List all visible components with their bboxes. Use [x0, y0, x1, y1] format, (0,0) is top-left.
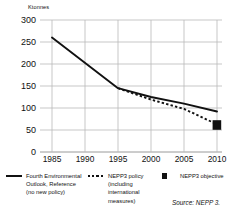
y-tick-150: 150 [10, 81, 36, 91]
y-tick-100: 100 [10, 103, 36, 113]
legend-reference-line2: Outlook, Reference [26, 180, 104, 188]
y-tick-200: 200 [10, 59, 36, 69]
legend-policy-line3: international [108, 188, 164, 196]
legend-item-nepp3-policy: NEPP3 policy (including international me… [108, 172, 164, 205]
series-reference-line [52, 38, 217, 112]
x-tick-2005: 2005 [175, 154, 194, 164]
grid-lines [40, 20, 222, 152]
x-tick-1990: 1990 [76, 154, 95, 164]
legend-item-nepp3-objective: NEPP3 objective [172, 172, 238, 180]
solid-line-swatch-icon [6, 175, 22, 177]
series-nepp3-policy-line [118, 88, 217, 124]
black-square-swatch-icon [162, 173, 167, 178]
y-tick-300: 300 [10, 15, 36, 25]
legend-objective-label: NEPP3 objective [172, 172, 238, 180]
x-axis-tick-labels: 1985 1990 1995 2000 2005 2010 [40, 154, 222, 168]
legend-reference-line3: (no new policy) [26, 188, 104, 196]
y-axis-unit-label: Ktonnes [28, 4, 49, 10]
chart-svg [40, 20, 222, 152]
y-tick-50: 50 [10, 125, 36, 135]
legend-policy-line1: NEPP3 policy [108, 172, 164, 180]
x-tick-2010: 2010 [208, 154, 227, 164]
x-tick-2000: 2000 [142, 154, 161, 164]
y-tick-0: 0 [10, 147, 36, 157]
dotted-line-swatch-icon [88, 175, 104, 177]
legend-policy-line4: measures) [108, 197, 164, 205]
y-axis-tick-labels: 300 250 200 150 100 50 0 [6, 20, 36, 152]
y-tick-250: 250 [10, 37, 36, 47]
x-tick-1995: 1995 [109, 154, 128, 164]
chart-legend: Fourth Environmental Outlook, Reference … [0, 172, 238, 215]
legend-policy-line2: (including [108, 180, 164, 188]
x-tick-1985: 1985 [43, 154, 62, 164]
source-note: Source: NEPP 3. [172, 198, 220, 207]
chart-container: Ktonnes 300 250 200 150 100 50 0 [0, 0, 238, 215]
series-nepp3-objective-marker [213, 120, 222, 130]
plot-area [40, 20, 222, 152]
